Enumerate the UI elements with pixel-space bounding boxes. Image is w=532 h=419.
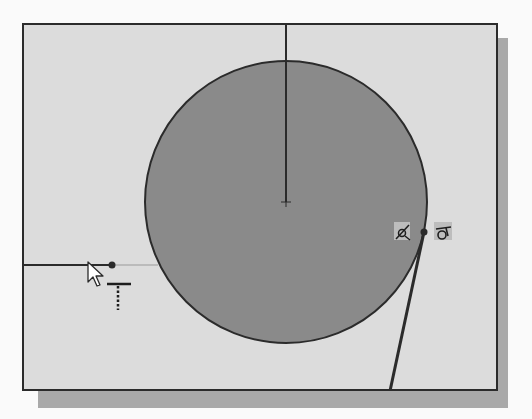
coincident-constraint-icon[interactable] — [434, 222, 452, 240]
horizontal-constraint-icon — [107, 284, 131, 310]
tangent-constraint-icon[interactable] — [394, 222, 410, 240]
tangent-point-dot[interactable] — [421, 229, 428, 236]
line-endpoint-dot[interactable] — [109, 262, 116, 269]
sketch-canvas[interactable] — [0, 0, 532, 419]
